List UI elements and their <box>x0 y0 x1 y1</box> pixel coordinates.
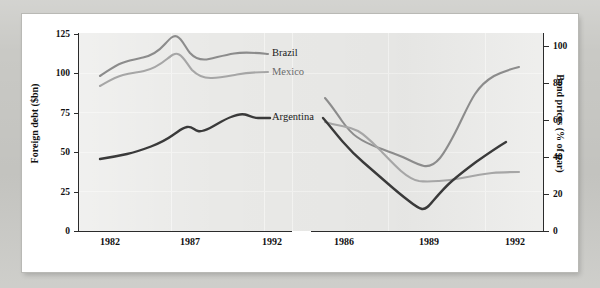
line-argentina-left <box>100 114 270 159</box>
chart-card: 0 25 50 75 100 125 0 20 40 60 80 100 198… <box>22 14 578 272</box>
chart-curves <box>22 14 578 272</box>
series-label-brazil: Brazil <box>272 47 298 58</box>
series-label-argentina: Argentina <box>272 111 314 122</box>
plot-wrapper: 0 25 50 75 100 125 0 20 40 60 80 100 198… <box>22 14 578 272</box>
line-mexico-left <box>100 54 268 86</box>
chart-page: 0 25 50 75 100 125 0 20 40 60 80 100 198… <box>0 0 600 288</box>
series-label-mexico: Mexico <box>272 66 304 77</box>
line-brazil-left <box>100 36 268 76</box>
